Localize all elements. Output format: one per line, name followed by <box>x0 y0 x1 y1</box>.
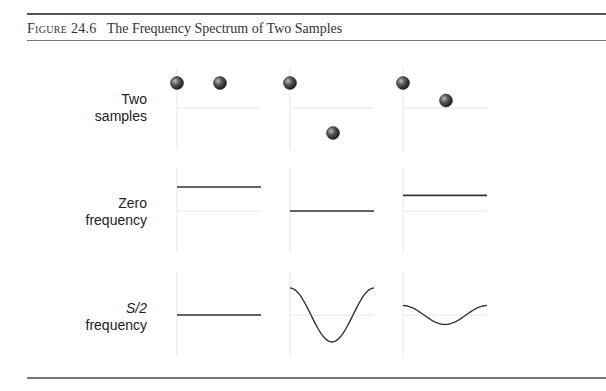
sample-dot <box>214 77 227 90</box>
axes-grid <box>177 68 487 357</box>
sample-dot <box>284 77 297 90</box>
sample-dot <box>327 127 340 140</box>
sample-dot <box>171 77 184 90</box>
sample-dot <box>440 94 453 107</box>
spectrum-diagram <box>0 0 606 391</box>
plot-content <box>171 77 488 343</box>
bottom-rule <box>27 377 606 379</box>
sample-dot <box>397 77 410 90</box>
